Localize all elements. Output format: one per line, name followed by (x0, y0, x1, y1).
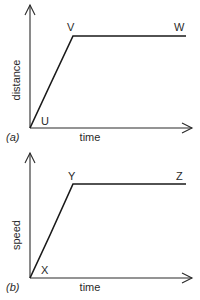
graph-diagram: U V W distance time (a) X Y Z speed time… (0, 0, 200, 300)
x-axis-label: time (80, 131, 101, 143)
panel-tag-b: (b) (6, 281, 20, 293)
panel-tag-a: (a) (6, 131, 20, 143)
panel-a-distance-time-graph: U V W distance time (a) (6, 5, 192, 143)
point-label-x: X (41, 264, 49, 276)
point-label-y: Y (68, 170, 76, 182)
x-axis-label: time (80, 281, 101, 293)
distance-curve (30, 36, 186, 128)
point-label-u: U (41, 115, 49, 127)
point-label-z: Z (176, 170, 183, 182)
y-axis-label: distance (10, 60, 22, 101)
panel-b-speed-time-graph: X Y Z speed time (b) (6, 153, 192, 293)
speed-curve (30, 184, 186, 278)
y-axis-label: speed (10, 220, 22, 250)
point-label-w: W (174, 21, 185, 33)
point-label-v: V (67, 21, 75, 33)
